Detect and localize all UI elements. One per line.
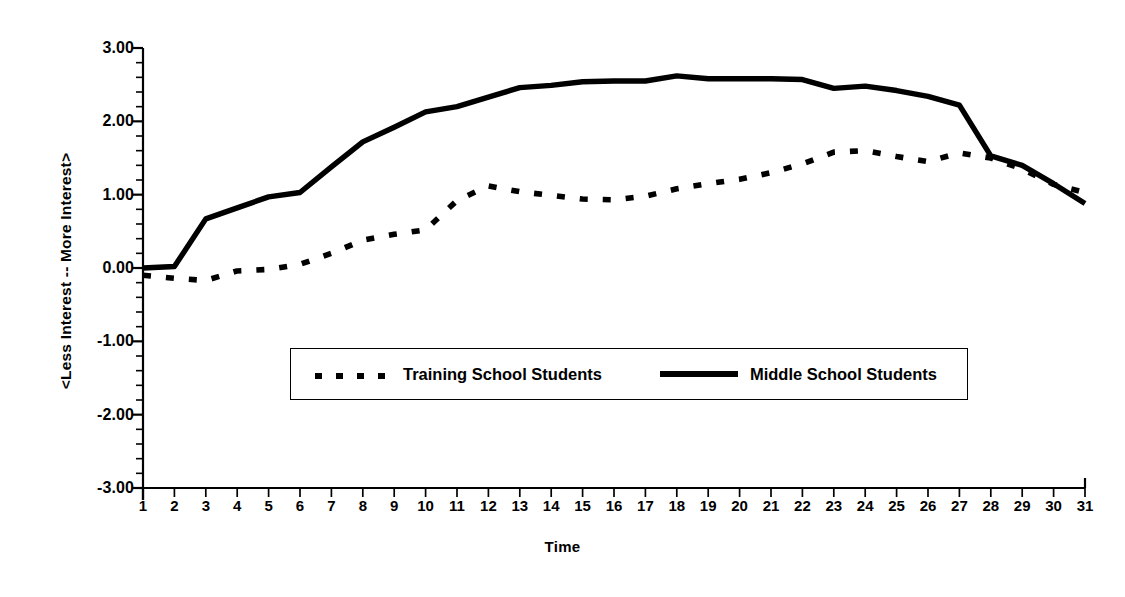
y-axis-tick-label: -2.00 bbox=[60, 406, 134, 424]
legend-entry-middle-school-students: Middle School Students bbox=[660, 365, 937, 384]
x-axis-title: Time bbox=[0, 538, 1125, 555]
legend-dotted-line-icon bbox=[313, 372, 391, 377]
series-layer bbox=[143, 76, 1085, 281]
chart-container: <Less Interest -- More Interest> 3.002.0… bbox=[0, 0, 1125, 597]
y-axis-tick-label: 2.00 bbox=[60, 112, 134, 130]
y-axis-tick-label: 0.00 bbox=[60, 259, 134, 277]
y-axis-tick-label: 1.00 bbox=[60, 186, 134, 204]
legend-entry-training-school-students: Training School Students bbox=[313, 365, 602, 384]
y-axis-tick-label: -1.00 bbox=[60, 332, 134, 350]
y-axis-tick-label: 3.00 bbox=[60, 39, 134, 57]
x-axis-tick-label: 31 bbox=[1065, 497, 1105, 514]
chart-legend: Training School Students Middle School S… bbox=[290, 348, 968, 400]
series-line-training-school-students bbox=[143, 151, 1085, 281]
legend-label-middle-school-students: Middle School Students bbox=[750, 365, 937, 384]
y-axis-tick-label: -3.00 bbox=[60, 479, 134, 497]
series-line-middle-school-students bbox=[143, 76, 1085, 268]
legend-label-training-school-students: Training School Students bbox=[403, 365, 602, 384]
legend-solid-line-icon bbox=[660, 371, 738, 377]
